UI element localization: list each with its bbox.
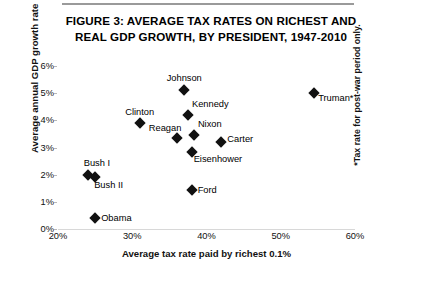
x-tick-label: 20%: [49, 231, 68, 242]
y-tick-label: 1%: [41, 197, 54, 207]
data-point-label: Truman*: [318, 93, 353, 103]
data-point-label: Bush II: [94, 180, 123, 190]
title-line-1: FIGURE 3: AVERAGE TAX RATES ON RICHEST A…: [18, 13, 404, 29]
data-point-label: Ford: [198, 185, 217, 195]
y-tick-label: 2%: [41, 170, 54, 180]
x-axis-line: [58, 229, 355, 230]
x-tick-label: 40%: [197, 231, 216, 242]
y-tick-mark: [54, 229, 57, 230]
y-tick-mark: [54, 175, 57, 176]
y-tick-mark: [54, 202, 57, 203]
x-tick-label: 30%: [123, 231, 142, 242]
y-axis-label: Average annual GDP growth rate: [29, 5, 43, 153]
x-axis-label: Average tax rate paid by richest 0.1%: [58, 248, 355, 259]
data-point-marker[interactable]: [182, 109, 193, 120]
x-tick-label: 50%: [271, 231, 290, 242]
data-point-marker[interactable]: [186, 184, 197, 195]
data-point-label: Nixon: [198, 119, 222, 129]
y-tick-mark: [54, 93, 57, 94]
figure-container: FIGURE 3: AVERAGE TAX RATES ON RICHEST A…: [0, 0, 422, 284]
data-point-label: Clinton: [125, 107, 154, 117]
page-title: FIGURE 3: AVERAGE TAX RATES ON RICHEST A…: [18, 13, 404, 44]
data-point-marker[interactable]: [134, 117, 145, 128]
x-axis-ticks: 20%30%40%50%60%: [0, 231, 422, 247]
data-point-marker[interactable]: [89, 212, 100, 223]
data-point-marker[interactable]: [179, 85, 190, 96]
data-point-label: Obama: [101, 213, 132, 223]
x-tick-label: 60%: [346, 231, 365, 242]
data-point-label: Eisenhower: [194, 154, 243, 164]
data-point-label: Kennedy: [192, 99, 229, 109]
y-tick-mark: [54, 148, 57, 149]
data-point-label: Bush I: [84, 158, 110, 168]
data-point-marker[interactable]: [188, 130, 199, 141]
y-tick-mark: [54, 120, 57, 121]
data-point-label: Johnson: [167, 73, 202, 83]
header-rule: [62, 3, 354, 5]
data-point-label: Carter: [227, 134, 253, 144]
y-tick-mark: [54, 66, 57, 67]
data-point-marker[interactable]: [216, 136, 227, 147]
data-point-label: Reagan: [149, 123, 182, 133]
title-line-2: REAL GDP GROWTH, BY PRESIDENT, 1947-2010: [18, 29, 404, 45]
scatter-plot-area: Truman*JohnsonKennedyClintonReaganNixonC…: [58, 66, 355, 229]
data-point-marker[interactable]: [171, 132, 182, 143]
